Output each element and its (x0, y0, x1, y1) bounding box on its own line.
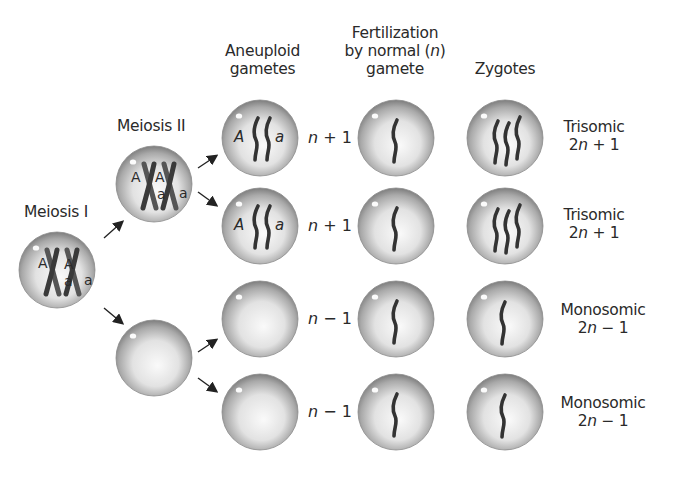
zygote-2 (467, 188, 543, 264)
z-suffix: − 1 (597, 319, 629, 337)
header-aneuploid-gametes: Aneuploid gametes (215, 42, 310, 78)
label-meiosis-2: Meiosis II (117, 117, 185, 135)
z-pre: 2 (569, 224, 579, 242)
header-fertilization: Fertilization by normal (n) gamete (335, 24, 455, 78)
zygote-formula: 2n − 1 (548, 319, 658, 337)
allele-m2-a2: a (179, 184, 187, 202)
z-n: n (587, 319, 597, 337)
header-aneuploid-line2: gametes (215, 60, 310, 78)
normal-gamete-3 (358, 281, 434, 357)
allele-m1-A1: A (38, 254, 47, 272)
fert-n: n (430, 42, 440, 60)
gamete-ploidy-4: n − 1 (308, 403, 352, 421)
allele-m2-A2: A (155, 168, 164, 186)
z-suffix: + 1 (588, 136, 620, 154)
header-fert-line2: by normal (n) (335, 42, 455, 60)
ploidy-op: − (323, 402, 336, 421)
ploidy-n: n (308, 128, 318, 147)
header-aneuploid-line1: Aneuploid (215, 42, 310, 60)
allele-m1-a1: a (64, 272, 72, 290)
z-suffix: − 1 (597, 412, 629, 430)
z-pre: 2 (578, 319, 588, 337)
z-pre: 2 (578, 412, 588, 430)
zygote-3 (467, 281, 543, 357)
fert-post: ) (440, 42, 446, 60)
gamete-3 (222, 281, 298, 357)
zygote-formula: 2n + 1 (548, 136, 640, 154)
gamete-ploidy-1: n + 1 (308, 129, 352, 147)
allele-g1-A: A (234, 128, 244, 146)
zygote-type: Trisomic (548, 206, 640, 224)
gamete-ploidy-2: n + 1 (308, 217, 352, 235)
zygote-formula: 2n − 1 (548, 412, 658, 430)
meiosis-1-cell (19, 232, 95, 308)
ploidy-k: 1 (342, 216, 352, 235)
allele-m1-A2: A (64, 255, 73, 273)
allele-m2-A1: A (131, 168, 140, 186)
normal-gamete-4 (358, 374, 434, 450)
zygote-label-3: Monosomic 2n − 1 (548, 301, 658, 337)
allele-g1-a: a (275, 128, 284, 146)
zygote-1 (467, 100, 543, 176)
zygote-label-1: Trisomic 2n + 1 (548, 118, 640, 154)
zygote-type: Monosomic (548, 301, 658, 319)
normal-gamete-1 (358, 100, 434, 176)
fert-pre: by normal ( (344, 42, 430, 60)
ploidy-op: − (323, 309, 336, 328)
zygote-type: Trisomic (548, 118, 640, 136)
z-n: n (578, 224, 588, 242)
ploidy-k: 1 (342, 309, 352, 328)
normal-gamete-2 (358, 188, 434, 264)
ploidy-n: n (308, 216, 318, 235)
z-n: n (587, 412, 597, 430)
allele-g2-A: A (234, 216, 244, 234)
ploidy-n: n (308, 402, 318, 421)
ploidy-k: 1 (342, 402, 352, 421)
header-fert-line3: gamete (335, 60, 455, 78)
meiosis-2-cell-empty (116, 320, 192, 396)
allele-m1-a2: a (84, 271, 92, 289)
header-fert-line1: Fertilization (335, 24, 455, 42)
allele-g2-a: a (275, 216, 284, 234)
zygote-type: Monosomic (548, 394, 658, 412)
header-zygotes: Zygotes (465, 60, 545, 78)
z-pre: 2 (569, 136, 579, 154)
ploidy-k: 1 (342, 128, 352, 147)
label-meiosis-1: Meiosis I (24, 203, 88, 221)
zygote-formula: 2n + 1 (548, 224, 640, 242)
zygote-label-2: Trisomic 2n + 1 (548, 206, 640, 242)
ploidy-op: + (323, 216, 336, 235)
gamete-4 (222, 374, 298, 450)
ploidy-op: + (323, 128, 336, 147)
ploidy-n: n (308, 309, 318, 328)
zygote-4 (467, 374, 543, 450)
z-suffix: + 1 (588, 224, 620, 242)
z-n: n (578, 136, 588, 154)
allele-m2-a1: a (157, 185, 165, 203)
gamete-ploidy-3: n − 1 (308, 310, 352, 328)
zygote-label-4: Monosomic 2n − 1 (548, 394, 658, 430)
